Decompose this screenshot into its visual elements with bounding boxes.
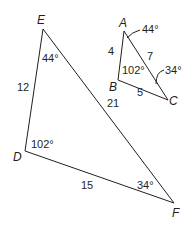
side-ac-label: 7 bbox=[147, 50, 153, 62]
similar-triangles-diagram: E D F 12 21 15 44° 102° 34° A B C 4 7 5 … bbox=[0, 0, 194, 225]
angle-b-label: 102° bbox=[122, 64, 145, 76]
angle-c-label: 34° bbox=[165, 64, 182, 76]
side-ab-label: 4 bbox=[108, 45, 114, 57]
angle-a-label: 44° bbox=[142, 23, 159, 35]
vertex-b-label: B bbox=[109, 80, 117, 94]
vertex-f-label: F bbox=[172, 206, 180, 220]
angle-a-leader bbox=[127, 30, 140, 38]
vertex-c-label: C bbox=[169, 94, 178, 108]
angle-d-label: 102° bbox=[31, 138, 54, 150]
vertex-a-label: A bbox=[118, 16, 127, 30]
vertex-d-label: D bbox=[13, 150, 22, 164]
vertex-e-label: E bbox=[37, 13, 46, 27]
angle-f-label: 34° bbox=[137, 179, 154, 191]
side-bc-label: 5 bbox=[137, 86, 143, 98]
side-ed-label: 12 bbox=[17, 81, 29, 93]
angle-c-leader bbox=[156, 70, 164, 84]
side-df-label: 15 bbox=[81, 179, 93, 191]
side-ef-label: 21 bbox=[107, 97, 119, 109]
angle-e-label: 44° bbox=[42, 52, 59, 64]
